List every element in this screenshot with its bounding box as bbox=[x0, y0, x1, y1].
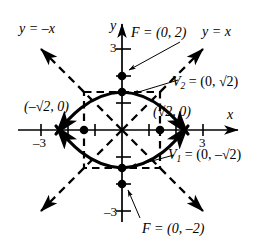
x-tick-label-minus-3: –3 bbox=[33, 136, 46, 149]
x-axis-name: x bbox=[227, 108, 233, 122]
focus-lower-label: F = (0, –2) bbox=[142, 222, 204, 236]
point-left bbox=[80, 126, 89, 135]
point-left-label: (–√2, 0) bbox=[24, 100, 69, 114]
asymptote-right-label: y = x bbox=[202, 25, 231, 39]
point-focus-lower bbox=[118, 180, 127, 189]
y-tick-label-3: 3 bbox=[110, 41, 117, 54]
y-tick-label-minus-3: –3 bbox=[104, 205, 117, 218]
vertex-upper-subscript: 2 bbox=[181, 81, 186, 91]
point-right-label: (√2, 0) bbox=[153, 105, 191, 119]
x-tick-label-3: 3 bbox=[199, 136, 206, 149]
leader-focus-lower bbox=[128, 190, 140, 218]
focus-upper-label: F = (0, 2) bbox=[131, 26, 186, 40]
asymptote-left-label: y = –x bbox=[19, 22, 55, 36]
vertex-lower-subscript: 1 bbox=[177, 154, 182, 164]
vertex-upper-value: = (0, √2) bbox=[189, 74, 238, 89]
vertex-lower-label: V1 = (0, –√2) bbox=[168, 148, 241, 165]
y-axis-name: y bbox=[110, 19, 116, 33]
point-vertex-lower bbox=[118, 164, 127, 173]
vertex-upper-label: V2 = (0, √2) bbox=[172, 75, 238, 92]
point-vertex-upper bbox=[118, 88, 127, 97]
vertex-upper-name: V bbox=[172, 74, 181, 89]
hyperbola-figure: y = –x y = x F = (0, 2) F = (0, –2) V2 =… bbox=[0, 0, 273, 242]
vertex-lower-value: = (0, –√2) bbox=[185, 147, 241, 162]
point-focus-upper bbox=[118, 72, 127, 81]
vertex-lower-name: V bbox=[168, 147, 177, 162]
point-right bbox=[156, 126, 165, 135]
leader-focus-upper bbox=[129, 42, 180, 70]
